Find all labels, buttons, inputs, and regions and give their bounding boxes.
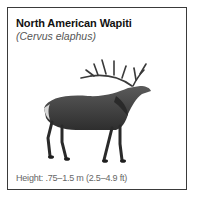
species-card: North American Wapiti (Cervus elaphus) xyxy=(7,7,187,190)
height-caption: Height: .75–1.5 m (2.5–4.9 ft) xyxy=(16,173,127,183)
species-common-name: North American Wapiti xyxy=(16,17,132,29)
species-scientific-name: (Cervus elaphus) xyxy=(16,30,96,42)
elk-illustration-icon xyxy=(36,56,162,168)
